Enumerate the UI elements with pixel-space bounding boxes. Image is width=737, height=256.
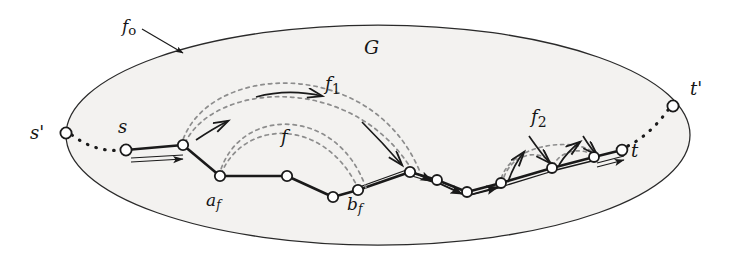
- outer-face-label-fo: fo: [122, 18, 136, 38]
- graph-region-G: [66, 25, 690, 245]
- a-f-sub: f: [216, 198, 221, 212]
- outer-face-label-sub: o: [128, 23, 136, 38]
- node-v4: [328, 192, 338, 202]
- outer-face-ellipse: [66, 25, 690, 245]
- node-a-f: [215, 171, 225, 181]
- node-s: [120, 144, 131, 155]
- node-t-prime: [667, 100, 678, 111]
- node-v11: [589, 152, 599, 162]
- node-v8: [462, 187, 472, 197]
- f1-sub: 1: [332, 81, 341, 97]
- graph-label-G: G: [364, 38, 379, 57]
- b-f-base: b: [347, 194, 358, 214]
- node-v1: [178, 140, 188, 150]
- node-label-a-f: af: [206, 192, 221, 212]
- f1-base: f: [325, 73, 332, 94]
- node-v6: [405, 167, 415, 177]
- face-label-f1: f1: [325, 75, 341, 96]
- fo-pointer-line: [142, 29, 183, 53]
- node-v10: [547, 163, 557, 173]
- figure-canvas: G fo s' s af bf f f1 f2 t t': [0, 0, 737, 256]
- node-label-b-f: bf: [347, 196, 362, 216]
- f2-sub: 2: [538, 114, 547, 130]
- node-t: [617, 145, 628, 156]
- node-s-prime: [60, 127, 71, 138]
- face-label-f: f: [281, 128, 288, 146]
- f2-base: f: [531, 106, 538, 127]
- node-label-s-prime: s': [30, 124, 44, 142]
- node-v9: [496, 178, 506, 188]
- node-label-t-prime: t': [690, 80, 702, 98]
- b-f-sub: f: [358, 202, 363, 216]
- a-f-base: a: [206, 190, 216, 210]
- node-label-t: t: [631, 142, 638, 160]
- node-label-s: s: [118, 118, 127, 136]
- node-v7: [432, 175, 442, 185]
- face-label-f2: f2: [531, 108, 547, 129]
- node-v3: [282, 171, 292, 181]
